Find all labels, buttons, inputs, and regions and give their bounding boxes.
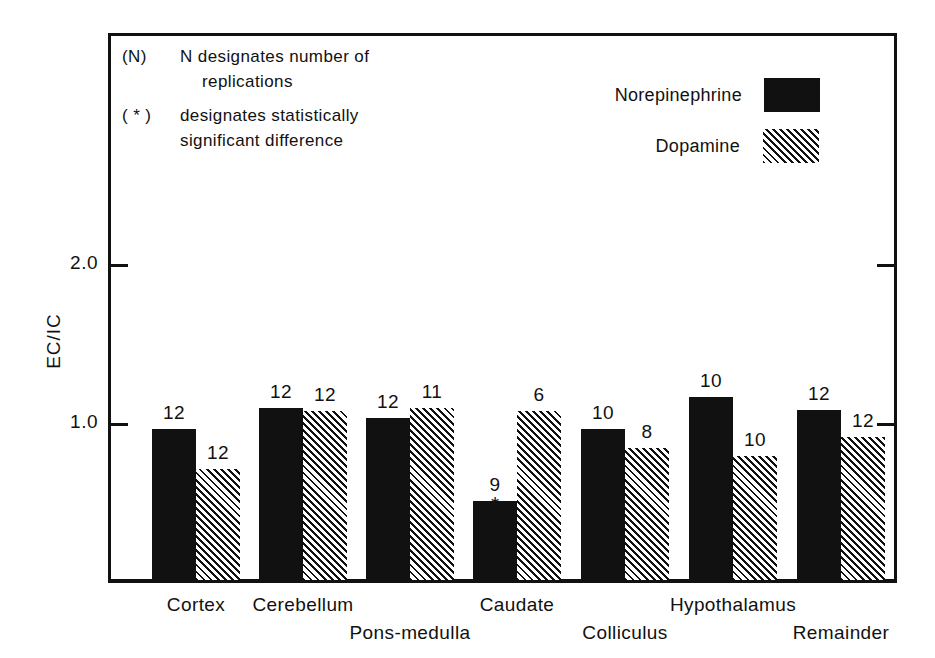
- y-axis-label: EC/IC: [43, 281, 65, 401]
- x-label-caudate: Caudate: [480, 594, 555, 616]
- bar-cerebellum-norepinephrine: [259, 408, 303, 580]
- bar-colliculus-dopamine: [625, 448, 669, 580]
- bar-colliculus-norepinephrine: [581, 429, 625, 580]
- significance-marker-caudate: *: [473, 493, 517, 514]
- bar-cerebellum-dopamine: [303, 411, 347, 580]
- n-label-cortex-norepinephrine: 12: [152, 402, 196, 424]
- bar-pons-medulla-dopamine: [410, 408, 454, 580]
- x-label-cortex: Cortex: [167, 594, 225, 616]
- n-label-hypothalamus-norepinephrine: 10: [689, 370, 733, 392]
- n-label-colliculus-norepinephrine: 10: [581, 402, 625, 424]
- n-label-cerebellum-norepinephrine: 12: [259, 381, 303, 403]
- plot-area: 1212121212119*610810101212: [111, 36, 894, 580]
- bar-remainder-dopamine: [841, 437, 885, 580]
- x-label-cerebellum: Cerebellum: [252, 594, 353, 616]
- x-label-colliculus: Colliculus: [582, 622, 667, 644]
- bar-pons-medulla-norepinephrine: [366, 418, 410, 580]
- n-label-caudate-dopamine: 6: [517, 384, 561, 406]
- figure-canvas: (N) N designates number of replications …: [0, 0, 935, 658]
- x-label-remainder: Remainder: [793, 622, 890, 644]
- n-label-pons-medulla-dopamine: 11: [410, 381, 454, 403]
- n-label-cortex-dopamine: 12: [196, 442, 240, 464]
- n-label-pons-medulla-norepinephrine: 12: [366, 391, 410, 413]
- y-tick-label-1: 1.0: [44, 411, 98, 433]
- x-label-hypothalamus: Hypothalamus: [670, 594, 796, 616]
- bar-caudate-dopamine: [517, 411, 561, 580]
- n-label-remainder-dopamine: 12: [841, 410, 885, 432]
- bar-hypothalamus-dopamine: [733, 456, 777, 580]
- bar-hypothalamus-norepinephrine: [689, 397, 733, 580]
- bar-cortex-dopamine: [196, 469, 240, 580]
- bar-cortex-norepinephrine: [152, 429, 196, 580]
- bar-remainder-norepinephrine: [797, 410, 841, 580]
- n-label-cerebellum-dopamine: 12: [303, 384, 347, 406]
- n-label-remainder-norepinephrine: 12: [797, 383, 841, 405]
- n-label-colliculus-dopamine: 8: [625, 421, 669, 443]
- y-tick-label-2: 2.0: [44, 252, 98, 274]
- n-label-hypothalamus-dopamine: 10: [733, 429, 777, 451]
- x-label-pons-medulla: Pons-medulla: [350, 622, 471, 644]
